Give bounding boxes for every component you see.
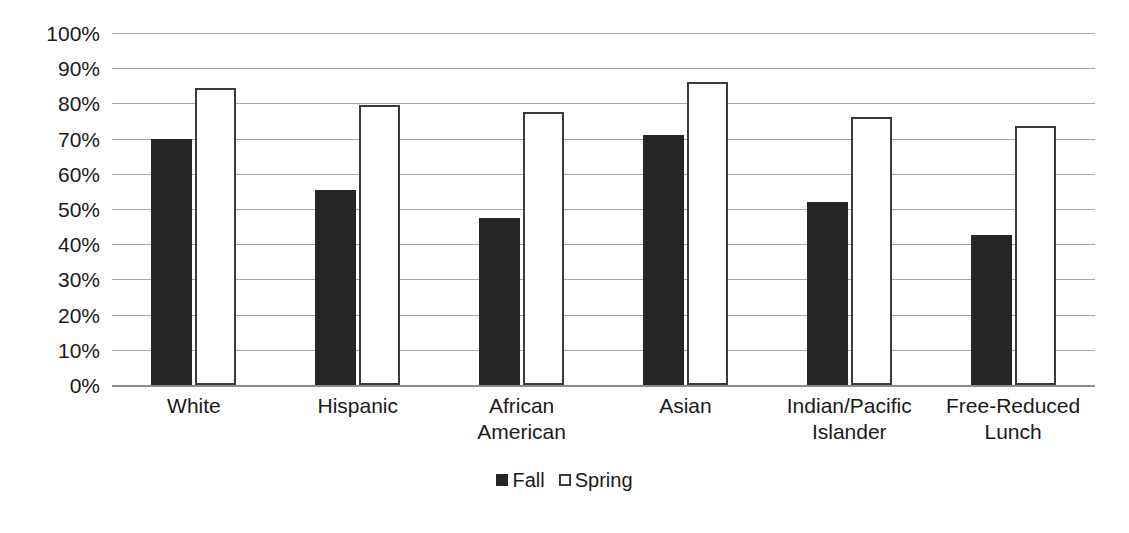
x-axis-category-label: Free-ReducedLunch <box>931 393 1095 445</box>
bar-spring[interactable] <box>523 112 564 385</box>
y-axis: 100%90%80%70%60%50%40%30%20%10%0% <box>0 33 100 385</box>
x-axis-category-label-line: Indian/Pacific <box>767 393 931 419</box>
bar-spring[interactable] <box>1015 126 1056 385</box>
y-axis-tick-label: 90% <box>58 58 100 79</box>
x-axis-category-label-line: Lunch <box>931 419 1095 445</box>
x-axis-category-label: Indian/PacificIslander <box>767 393 931 445</box>
gridline <box>112 209 1095 210</box>
bar-spring[interactable] <box>359 105 400 385</box>
y-axis-tick-label: 80% <box>58 93 100 114</box>
legend-item-label: Spring <box>575 470 633 490</box>
x-axis-category-label-line: Islander <box>767 419 931 445</box>
y-axis-tick-label: 100% <box>46 23 100 44</box>
chart-legend: FallSpring <box>0 470 1129 490</box>
filled-square-icon <box>496 474 508 486</box>
plot-area <box>112 33 1095 385</box>
x-axis-category-label-line: Hispanic <box>276 393 440 419</box>
y-axis-tick-label: 50% <box>58 199 100 220</box>
gridline <box>112 279 1095 280</box>
x-axis-category-label: White <box>112 393 276 419</box>
gridline <box>112 315 1095 316</box>
x-axis-category-label: Hispanic <box>276 393 440 419</box>
y-axis-tick-label: 40% <box>58 234 100 255</box>
x-axis-category-label-line: American <box>440 419 604 445</box>
x-axis-category-label-line: White <box>112 393 276 419</box>
bar-fall[interactable] <box>971 235 1012 385</box>
y-axis-tick-label: 60% <box>58 163 100 184</box>
gridline <box>112 33 1095 34</box>
bar-fall[interactable] <box>315 190 356 385</box>
legend-item-label: Fall <box>512 470 544 490</box>
y-axis-tick-label: 0% <box>70 375 100 396</box>
gridline <box>112 139 1095 140</box>
x-axis-line <box>112 385 1095 387</box>
gridline <box>112 244 1095 245</box>
y-axis-tick-label: 30% <box>58 269 100 290</box>
y-axis-tick-label: 10% <box>58 339 100 360</box>
x-axis-category-label-line: African <box>440 393 604 419</box>
bar-spring[interactable] <box>851 117 892 385</box>
bar-spring[interactable] <box>687 82 728 385</box>
bar-spring[interactable] <box>195 88 236 385</box>
x-axis-category-label-line: Free-Reduced <box>931 393 1095 419</box>
bar-fall[interactable] <box>643 135 684 385</box>
grouped-bar-chart: 100%90%80%70%60%50%40%30%20%10%0% WhiteH… <box>0 0 1129 533</box>
gridline <box>112 174 1095 175</box>
bar-fall[interactable] <box>807 202 848 385</box>
y-axis-tick-label: 70% <box>58 128 100 149</box>
legend-item-fall[interactable]: Fall <box>496 470 544 490</box>
x-axis-category-label-line: Asian <box>604 393 768 419</box>
y-axis-tick-label: 20% <box>58 304 100 325</box>
gridline <box>112 103 1095 104</box>
gridline <box>112 68 1095 69</box>
outlined-square-icon <box>559 474 571 486</box>
legend-item-spring[interactable]: Spring <box>559 470 633 490</box>
bar-fall[interactable] <box>479 218 520 385</box>
x-axis: WhiteHispanicAfricanAmericanAsianIndian/… <box>112 393 1095 461</box>
bar-fall[interactable] <box>151 139 192 385</box>
gridline <box>112 350 1095 351</box>
x-axis-category-label: AfricanAmerican <box>440 393 604 445</box>
x-axis-category-label: Asian <box>604 393 768 419</box>
